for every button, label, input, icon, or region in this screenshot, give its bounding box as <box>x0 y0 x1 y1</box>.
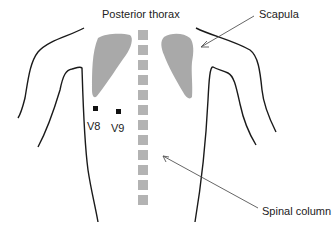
right-scapula-shape <box>161 34 193 99</box>
vertebra <box>138 195 148 205</box>
spinal-column-arrow <box>163 156 258 208</box>
left-outer-body-outline <box>18 28 84 118</box>
right-outer-body-outline <box>196 28 276 132</box>
diagram-title: Posterior thorax <box>102 9 180 20</box>
vertebra <box>138 120 148 130</box>
left-scapula-shape <box>92 34 132 97</box>
vertebra <box>138 180 148 190</box>
scapula-arrow <box>201 16 254 47</box>
scapula-label: Scapula <box>259 9 299 20</box>
v9-label: V9 <box>111 123 124 134</box>
v8-label: V8 <box>87 121 100 132</box>
vertebra <box>138 75 148 85</box>
vertebra <box>138 135 148 145</box>
vertebra <box>138 30 148 40</box>
vertebra <box>138 105 148 115</box>
spinal-column <box>138 30 148 205</box>
left-inner-body-outline <box>38 67 98 222</box>
right-inner-body-outline <box>195 67 256 222</box>
electrode-marker-v9 <box>116 109 121 114</box>
diagram-canvas <box>0 0 332 233</box>
vertebra <box>138 90 148 100</box>
vertebra <box>138 150 148 160</box>
electrode-marker-v8 <box>93 106 98 111</box>
spinal-column-label: Spinal column <box>262 206 331 217</box>
vertebra <box>138 60 148 70</box>
vertebra <box>138 165 148 175</box>
posterior-thorax-diagram: Posterior thorax Scapula V8 V9 Spinal co… <box>0 0 332 233</box>
vertebra <box>138 45 148 55</box>
